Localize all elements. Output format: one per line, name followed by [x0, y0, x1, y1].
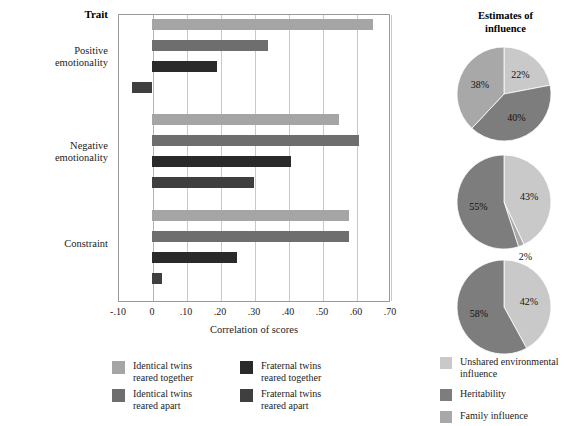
legend-item[interactable]: Fraternal twins reared apart	[240, 388, 321, 411]
x-tick-label: .60	[350, 306, 363, 317]
bar-chart: Trait Positive emotionalityNegative emot…	[0, 0, 430, 345]
pie-slice-label: 43%	[520, 191, 538, 202]
legend-label: Fraternal twins reared apart	[261, 388, 321, 411]
x-tick-label: .40	[282, 306, 295, 317]
bar	[152, 19, 373, 30]
x-tick-label: .50	[316, 306, 329, 317]
gridline	[391, 15, 392, 301]
bar	[132, 82, 152, 93]
trait-axis-header: Trait	[8, 8, 108, 20]
x-tick-label: .70	[384, 306, 397, 317]
bar	[152, 156, 291, 167]
bar	[152, 40, 268, 51]
bar	[152, 210, 349, 221]
legend-item[interactable]: Identical twins reared together	[112, 360, 193, 383]
figure-root: Trait Positive emotionalityNegative emot…	[0, 0, 573, 426]
legend-label: Fraternal twins reared together	[261, 360, 321, 383]
pie-slice-label: 55%	[469, 201, 487, 212]
pie-legend-swatch-icon	[440, 357, 452, 369]
legend-label: Identical twins reared together	[133, 360, 193, 383]
pie-slice-label: 40%	[507, 111, 525, 122]
bars-layer	[118, 14, 390, 302]
bar	[152, 177, 254, 188]
legend-swatch-icon	[240, 389, 253, 402]
x-tick-label: .20	[214, 306, 227, 317]
legend-swatch-icon	[240, 361, 253, 374]
legend-item[interactable]: Fraternal twins reared together	[240, 360, 321, 383]
pie-legend: Unshared environmental influenceHeritabi…	[440, 356, 573, 426]
pie-legend-label: Heritability	[460, 388, 506, 400]
pie-title-line-2: influence	[485, 23, 526, 34]
pie-legend-swatch-icon	[440, 389, 452, 401]
bar	[152, 252, 237, 263]
legend-item[interactable]: Identical twins reared apart	[112, 388, 192, 411]
trait-label-0: Positive emotionality	[8, 45, 108, 69]
pie-chart-1: 43%2%55%	[454, 152, 554, 252]
pie-legend-item[interactable]: Family influence	[440, 410, 573, 423]
pie-chart-0: 22%40%38%	[454, 44, 554, 144]
pie-slice-label: 22%	[511, 69, 529, 80]
pie-svg	[454, 44, 554, 144]
bar	[152, 135, 359, 146]
pie-legend-label: Unshared environmental influence	[460, 356, 573, 379]
x-tick-label: -.10	[110, 306, 126, 317]
x-axis-title: Correlation of scores	[118, 324, 390, 335]
bar-chart-legend: Identical twins reared togetherFraternal…	[112, 360, 412, 416]
legend-label: Identical twins reared apart	[133, 388, 192, 411]
x-tick-label: .30	[248, 306, 261, 317]
pie-legend-item[interactable]: Heritability	[440, 388, 573, 401]
pie-panel-title: Estimates of influence	[438, 10, 573, 35]
bar	[152, 61, 217, 72]
legend-swatch-icon	[112, 389, 125, 402]
trait-label-1: Negative emotionality	[8, 140, 108, 164]
pie-legend-swatch-icon	[440, 411, 452, 423]
pie-legend-label: Family influence	[460, 410, 528, 422]
x-tick-label: .10	[180, 306, 193, 317]
pie-chart-2: 42%58%	[454, 257, 554, 357]
bar	[152, 231, 349, 242]
x-tick-label: 0	[150, 306, 155, 317]
pie-slice-label: 38%	[471, 79, 489, 90]
bar	[152, 273, 162, 284]
trait-label-2: Constraint	[8, 238, 108, 250]
pie-panel: Estimates of influence 22%40%38%43%2%55%…	[438, 0, 573, 426]
pie-legend-item[interactable]: Unshared environmental influence	[440, 356, 573, 379]
pie-slice-label: 42%	[520, 295, 538, 306]
pie-title-line-1: Estimates of	[478, 10, 533, 21]
bar	[152, 114, 339, 125]
pie-slice-label: 58%	[470, 308, 488, 319]
legend-swatch-icon	[112, 361, 125, 374]
